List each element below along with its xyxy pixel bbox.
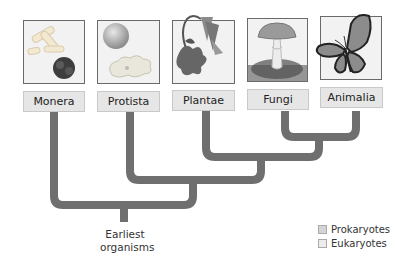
root-label-line2: organisms bbox=[100, 241, 150, 254]
flower-icon bbox=[173, 11, 236, 81]
legend: Prokaryotes Eukaryotes bbox=[318, 222, 390, 250]
bacteria-icon bbox=[24, 21, 84, 83]
prokaryotes-swatch bbox=[318, 225, 327, 234]
legend-label: Eukaryotes bbox=[331, 238, 387, 249]
butterfly-icon bbox=[311, 14, 381, 80]
animalia-label: Animalia bbox=[320, 87, 383, 108]
legend-label: Prokaryotes bbox=[331, 224, 390, 235]
mushroom-icon bbox=[248, 19, 307, 81]
legend-item-prokaryotes: Prokaryotes bbox=[318, 222, 390, 236]
protist-icon bbox=[98, 21, 159, 83]
animalia-card bbox=[320, 16, 382, 80]
protista-label: Protista bbox=[97, 91, 160, 112]
plantae-label: Plantae bbox=[172, 90, 235, 111]
legend-item-eukaryotes: Eukaryotes bbox=[318, 236, 390, 250]
fungi-card bbox=[247, 18, 308, 82]
monera-label: Monera bbox=[23, 91, 85, 112]
earliest-organisms-label: Earliest organisms bbox=[100, 228, 150, 254]
fungi-label: Fungi bbox=[247, 89, 309, 110]
plantae-card bbox=[172, 20, 235, 84]
root-label-line1: Earliest bbox=[100, 228, 150, 241]
eukaryotes-swatch bbox=[318, 239, 327, 248]
monera-card bbox=[23, 20, 85, 84]
protista-card bbox=[97, 20, 160, 84]
